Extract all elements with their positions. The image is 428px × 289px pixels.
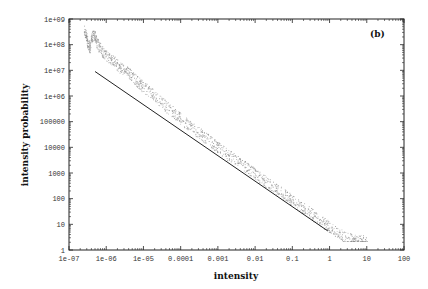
x-tick-label: 1e-05 xyxy=(133,255,154,263)
y-axis-title: intensity probability xyxy=(20,83,30,186)
y-tick-label: 10 xyxy=(57,221,65,229)
x-tick-label: 0.001 xyxy=(207,255,228,263)
x-tick-label: 0.1 xyxy=(286,255,299,263)
power-law-fit-line xyxy=(95,72,328,231)
y-tick-label: 1e+06 xyxy=(44,93,65,101)
y-tick-label: 1e+08 xyxy=(44,41,65,49)
x-tick-label: 1e-06 xyxy=(96,255,117,263)
x-tick-label: 1e-07 xyxy=(58,255,79,263)
x-tick-label: 0.01 xyxy=(247,255,264,263)
x-tick-label: 1 xyxy=(327,255,331,263)
x-tick-label: 10 xyxy=(363,255,371,263)
x-tick-label: 100 xyxy=(398,255,411,263)
y-tick-label: 100 xyxy=(52,195,65,203)
y-tick-label: 10000 xyxy=(44,144,65,152)
y-tick-label: 100000 xyxy=(40,118,65,126)
y-axis-ticks: 1101001000100001000001e+061e+071e+081e+0… xyxy=(40,16,404,255)
y-tick-label: 1 xyxy=(61,247,65,255)
y-tick-label: 1e+07 xyxy=(44,67,65,75)
x-axis-title: intensity xyxy=(214,271,259,281)
panel-label: (b) xyxy=(370,29,385,39)
scatter-points xyxy=(84,26,368,242)
plot-frame xyxy=(69,19,404,250)
log-log-scatter-chart: 1e-071e-061e-050.00010.0010.010.1110100 … xyxy=(0,0,428,289)
y-tick-label: 1e+09 xyxy=(44,16,65,24)
x-tick-label: 0.0001 xyxy=(168,255,193,263)
y-tick-label: 1000 xyxy=(48,170,65,178)
x-axis-ticks: 1e-071e-061e-050.00010.0010.010.1110100 xyxy=(58,19,410,263)
